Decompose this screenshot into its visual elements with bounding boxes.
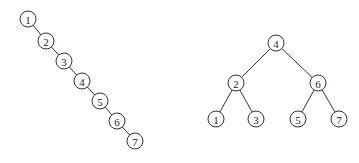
node-label: 3: [253, 114, 259, 126]
degenerate-tree-edge: [69, 67, 76, 75]
degenerate-tree-edge: [51, 47, 58, 55]
node-label: 6: [114, 116, 120, 128]
degenerate-tree-node-2: 2: [38, 33, 54, 49]
balanced-tree-edge: [220, 90, 232, 112]
node-label: 2: [233, 78, 239, 90]
node-label: 5: [97, 96, 103, 108]
node-label: 1: [25, 14, 31, 26]
balanced-tree-node-4: 4: [268, 35, 284, 51]
degenerate-tree-edge: [105, 107, 112, 115]
node-label: 7: [132, 136, 138, 148]
nodes-layer: 12345674261357: [20, 11, 347, 149]
degenerate-tree-node-6: 6: [109, 113, 125, 129]
node-label: 5: [295, 114, 301, 126]
node-label: 6: [315, 78, 321, 90]
node-label: 2: [43, 36, 49, 48]
node-label: 4: [273, 38, 279, 50]
tree-diagram-canvas: 12345674261357: [0, 0, 359, 163]
degenerate-tree-node-4: 4: [74, 73, 90, 89]
degenerate-tree-node-5: 5: [92, 93, 108, 109]
balanced-tree-edge: [242, 49, 271, 78]
balanced-tree-edge: [240, 90, 252, 112]
node-label: 1: [213, 114, 219, 126]
degenerate-tree-edge: [87, 87, 94, 95]
balanced-tree-edge: [322, 90, 335, 112]
balanced-tree-node-6: 6: [310, 75, 326, 91]
node-label: 4: [79, 76, 85, 88]
degenerate-tree-node-7: 7: [127, 133, 143, 149]
balanced-tree-node-1: 1: [208, 111, 224, 127]
degenerate-tree-node-1: 1: [20, 11, 36, 27]
degenerate-tree-edge: [122, 127, 129, 135]
balanced-tree-edge: [282, 49, 312, 78]
balanced-tree-node-5: 5: [290, 111, 306, 127]
balanced-tree-node-3: 3: [248, 111, 264, 127]
degenerate-tree-node-3: 3: [56, 53, 72, 69]
degenerate-tree-edge: [33, 25, 41, 35]
node-label: 3: [61, 56, 67, 68]
balanced-tree-node-7: 7: [331, 111, 347, 127]
node-label: 7: [336, 114, 342, 126]
balanced-tree-node-2: 2: [228, 75, 244, 91]
balanced-tree-edge: [302, 90, 314, 112]
